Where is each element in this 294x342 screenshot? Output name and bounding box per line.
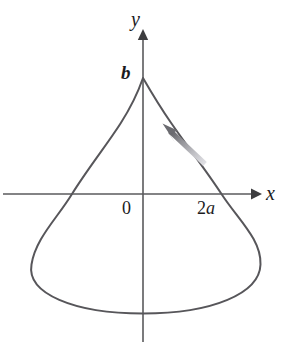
orientation-arrow-shaft xyxy=(170,131,205,164)
figure-container: y x b 0 2a xyxy=(0,0,294,342)
orientation-arrow xyxy=(163,124,206,165)
y-axis-arrow-icon xyxy=(138,29,148,40)
x-intercept-number: 2 xyxy=(197,198,206,218)
y-axis-label: y xyxy=(131,9,140,29)
x-axis-label: x xyxy=(266,183,275,203)
x-intercept-symbol: a xyxy=(206,198,215,218)
x-intercept-label: 2a xyxy=(197,199,215,217)
cardioid-curve xyxy=(31,78,260,314)
origin-label: 0 xyxy=(122,199,131,217)
curve-diagram-svg xyxy=(0,0,294,342)
x-axis-arrow-icon xyxy=(251,189,262,200)
y-intercept-label: b xyxy=(121,63,131,82)
